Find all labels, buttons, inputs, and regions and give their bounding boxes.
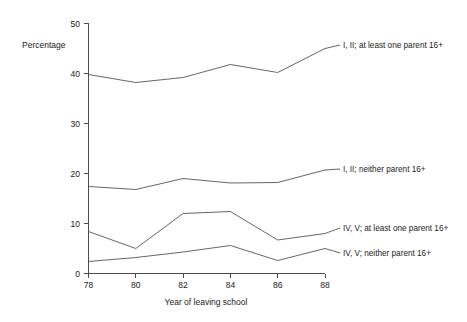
y-tick-label-30: 30: [71, 119, 81, 129]
x-tick-label-78: 78: [84, 280, 94, 290]
y-tick-label-40: 40: [71, 69, 81, 79]
x-axis-title: Year of leaving school: [165, 297, 248, 307]
series-label-0: I, II; at least one parent 16+: [343, 41, 443, 50]
series-label-2: IV, V; at least one parent 16+: [343, 224, 448, 233]
series-label-1: I, II; neither parent 16+: [343, 165, 426, 174]
x-tick-label-88: 88: [320, 280, 330, 290]
x-tick-label-84: 84: [226, 280, 236, 290]
y-tick-label-50: 50: [71, 19, 81, 29]
x-tick-label-82: 82: [178, 280, 188, 290]
y-tick-label-0: 0: [75, 269, 80, 279]
x-tick-label-86: 86: [273, 280, 283, 290]
y-tick-label-10: 10: [71, 219, 81, 229]
y-axis-title: Percentage: [22, 40, 66, 50]
series-label-3: IV, V; neither parent 16+: [343, 249, 431, 258]
line-chart-figure: 0 10 20 30 40 50 78 80 82 84 86 88 Perce…: [0, 0, 467, 322]
x-tick-label-80: 80: [131, 280, 141, 290]
y-tick-label-20: 20: [71, 169, 81, 179]
